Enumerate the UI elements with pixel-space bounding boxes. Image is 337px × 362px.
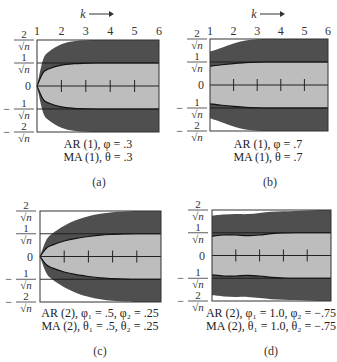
x-tick-label: 2 (58, 24, 64, 38)
panel-a: 2√n1√n01√n−2√n−k123456AR (1), φ = .3MA (… (3, 7, 162, 189)
x-tick-label: 1 (34, 24, 40, 38)
panel-caption-line: MA (1), θ = .7 (233, 150, 302, 164)
x-tick-label: 4 (278, 24, 284, 38)
y-tick-numerator: 1 (194, 96, 200, 108)
y-tick-numerator: 2 (23, 290, 29, 302)
y-tick-sign: − (177, 271, 184, 285)
y-tick-numerator: 1 (194, 50, 200, 62)
y-tick-numerator: 1 (23, 267, 29, 279)
y-tick-denominator: √n (191, 62, 203, 74)
panel-caption-line: AR (1), φ = .7 (234, 137, 302, 151)
y-tick-numerator: 1 (21, 97, 27, 109)
panel-caption-line: AR (2), φ₁ = 1.0, φ₂ = −.75 (206, 306, 336, 320)
y-tick-numerator: 2 (195, 289, 201, 301)
x-tick-label: 5 (132, 24, 138, 38)
y-tick-numerator: 2 (194, 27, 200, 39)
y-tick-sign: − (3, 102, 10, 116)
y-tick-denominator: √n (20, 234, 32, 246)
y-tick-denominator: √n (18, 63, 30, 75)
y-tick-label: 0 (198, 78, 204, 92)
x-tick-label: 6 (156, 24, 162, 38)
panel-label: (b) (263, 175, 277, 189)
x-axis-label: k (251, 7, 257, 21)
x-tick-label: 3 (254, 24, 260, 38)
arrow-right-icon (280, 11, 285, 17)
y-tick-numerator: 1 (195, 266, 201, 278)
x-tick-label: 2 (231, 24, 237, 38)
y-tick-denominator: √n (192, 233, 204, 245)
y-tick-label: 0 (199, 249, 205, 263)
y-tick-sign: − (176, 124, 183, 138)
y-tick-sign: − (177, 294, 184, 308)
acf-band-figure: 2√n1√n01√n−2√n−k123456AR (1), φ = .3MA (… (0, 0, 337, 362)
panel-caption-line: MA (1), θ = .3 (63, 150, 132, 164)
y-tick-numerator: 1 (195, 221, 201, 233)
x-axis-label: k (80, 7, 86, 21)
y-tick-denominator: √n (191, 131, 203, 143)
y-tick-numerator: 2 (23, 199, 29, 211)
panel-label: (a) (92, 175, 105, 189)
panel-caption-line: AR (2), φ₁ = .5, φ₂ = .25 (41, 306, 158, 320)
y-tick-sign: − (5, 295, 12, 309)
x-tick-label: 4 (107, 24, 113, 38)
y-tick-denominator: √n (20, 302, 32, 314)
y-tick-denominator: √n (18, 132, 30, 144)
panel-label: (c) (93, 344, 106, 358)
y-tick-numerator: 2 (21, 120, 27, 132)
y-tick-sign: − (176, 101, 183, 115)
arrow-right-icon (109, 11, 114, 17)
panel-b: 2√n1√n01√n−2√n−k123456AR (1), φ = .7MA (… (176, 7, 331, 189)
panel-caption-line: AR (1), φ = .3 (64, 137, 132, 151)
y-tick-sign: − (3, 125, 10, 139)
y-tick-label: 0 (27, 250, 33, 264)
y-tick-numerator: 1 (21, 51, 27, 63)
y-tick-numerator: 2 (194, 119, 200, 131)
panel-label: (d) (264, 344, 278, 358)
panel-caption-line: MA (2), θ₁ = 1.0, θ₂ = −.75 (206, 319, 336, 333)
y-tick-denominator: √n (192, 301, 204, 313)
panel-c: 2√n1√n01√n−2√n−AR (2), φ₁ = .5, φ₂ = .25… (5, 199, 161, 358)
panel-d: 2√n1√n01√n−2√n−AR (2), φ₁ = 1.0, φ₂ = −.… (177, 198, 336, 358)
y-tick-label: 0 (25, 79, 31, 93)
x-tick-label: 6 (325, 24, 331, 38)
x-tick-label: 3 (83, 24, 89, 38)
x-tick-label: 1 (207, 24, 213, 38)
panel-caption-line: MA (2), θ₁ = .5, θ₂ = .25 (41, 319, 158, 333)
y-tick-numerator: 1 (23, 222, 29, 234)
x-tick-label: 5 (301, 24, 307, 38)
y-tick-sign: − (5, 272, 12, 286)
y-tick-numerator: 2 (21, 28, 27, 40)
y-tick-numerator: 2 (195, 198, 201, 210)
